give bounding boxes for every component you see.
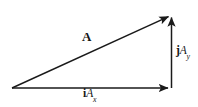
y-magnitude-symbol: A	[180, 44, 187, 56]
y-subscript: y	[187, 52, 190, 61]
vector-diagram-canvas	[0, 0, 198, 107]
resultant-vector-label: A	[82, 30, 91, 43]
x-subscript: x	[93, 95, 96, 104]
y-component-label: jAy	[176, 45, 190, 59]
resultant-vector-arrow	[12, 17, 169, 88]
vector-decomposition-figure: A iAx jAy	[0, 0, 198, 107]
x-component-label: iAx	[83, 88, 97, 102]
